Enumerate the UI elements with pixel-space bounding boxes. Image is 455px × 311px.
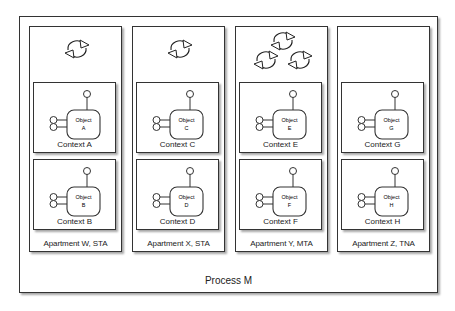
svg-text:C: C — [185, 125, 189, 131]
process-m-box: Object A Context A Object B Context B Ap… — [19, 16, 438, 293]
object-a: Object A — [34, 83, 117, 143]
process-label: Process M — [20, 275, 437, 286]
context-label: Context C — [137, 140, 218, 149]
sync-arrows-icon — [251, 48, 281, 72]
context-b: Object B Context B — [33, 159, 116, 230]
apartment-label: Apartment Y, MTA — [236, 239, 327, 248]
apartment-label: Apartment W, STA — [30, 239, 121, 248]
apartment-label: Apartment Z, TNA — [338, 239, 429, 248]
context-label: Context A — [34, 140, 115, 149]
context-label: Context H — [342, 217, 423, 226]
svg-text:Object: Object — [179, 117, 195, 123]
svg-text:Object: Object — [282, 194, 298, 200]
context-g: Object G Context G — [341, 82, 424, 153]
context-a: Object A Context A — [33, 82, 116, 153]
context-label: Context D — [137, 217, 218, 226]
svg-text:Object: Object — [76, 194, 92, 200]
apartment-x: Object C Context C Object D Context D Ap… — [132, 26, 225, 252]
object-g: Object G — [342, 83, 425, 143]
context-label: Context B — [34, 217, 115, 226]
context-label: Context G — [342, 140, 423, 149]
context-h: Object H Context H — [341, 159, 424, 230]
apartment-z: Object G Context G Object H Context H Ap… — [337, 26, 430, 252]
svg-text:Object: Object — [282, 117, 298, 123]
object-b: Object B — [34, 160, 117, 220]
svg-text:Object: Object — [384, 117, 400, 123]
svg-text:H: H — [390, 202, 394, 208]
object-h: Object H — [342, 160, 425, 220]
object-d: Object D — [137, 160, 220, 220]
svg-text:E: E — [288, 125, 292, 131]
apartment-y: Object E Context E Object F Context F Ap… — [235, 26, 328, 252]
svg-text:Object: Object — [179, 194, 195, 200]
lollipop-interface-icon — [50, 117, 57, 124]
sync-arrows-icon — [285, 48, 315, 72]
context-d: Object D Context D — [136, 159, 219, 230]
object-e: Object E — [240, 83, 323, 143]
svg-text:Object: Object — [384, 194, 400, 200]
context-label: Context E — [240, 140, 321, 149]
svg-text:A: A — [82, 125, 86, 131]
sync-arrows-icon — [62, 37, 92, 61]
context-label: Context F — [240, 217, 321, 226]
apartment-label: Apartment X, STA — [133, 239, 224, 248]
context-e: Object E Context E — [239, 82, 322, 153]
apartment-w: Object A Context A Object B Context B Ap… — [29, 26, 122, 252]
context-f: Object F Context F — [239, 159, 322, 230]
lollipop-interface-icon — [50, 124, 57, 131]
svg-text:Object: Object — [76, 117, 92, 123]
svg-text:D: D — [185, 202, 189, 208]
svg-text:G: G — [389, 125, 393, 131]
context-c: Object C Context C — [136, 82, 219, 153]
svg-text:B: B — [82, 202, 86, 208]
sync-arrows-icon — [165, 37, 195, 61]
object-c: Object C — [137, 83, 220, 143]
object-f: Object F — [240, 160, 323, 220]
